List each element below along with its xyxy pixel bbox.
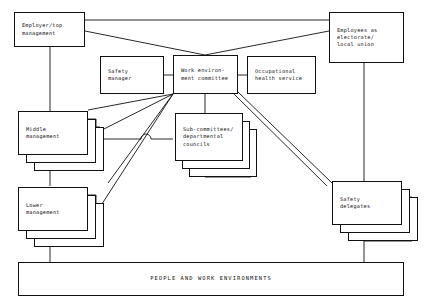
node-people-and-work-environments-label: PEOPLE AND WORK ENVIRONMENTS [19, 275, 403, 282]
node-employees-electorate[interactable]: Employees as electorate/ local union [329, 12, 404, 63]
node-middle-management-label: Middle management [19, 126, 87, 140]
node-safety-delegates[interactable]: Safety delegates [332, 181, 402, 225]
link-employees-to-committee [205, 31, 329, 55]
node-employees-electorate-label: Employees as electorate/ local union [330, 27, 403, 49]
link-committee-to-lower-management-upper [108, 94, 173, 183]
node-safety-delegates-label: Safety delegates [333, 196, 401, 210]
node-lower-management[interactable]: Lower management [18, 187, 88, 231]
node-employer-top-management[interactable]: Employer/top management [14, 12, 85, 47]
work-environment-org-diagram: Employer/top management Employees as ele… [0, 0, 425, 308]
node-sub-committees-departmental-councils-label: Sub-committees/ departmental councils [176, 126, 242, 148]
node-lower-management-label: Lower management [19, 202, 87, 216]
link-committee-to-lower-management-lower [100, 94, 173, 207]
link-employer-to-committee [85, 31, 205, 55]
node-occupational-health-service[interactable]: Occupational health service [247, 56, 316, 94]
node-people-and-work-environments[interactable]: PEOPLE AND WORK ENVIRONMENTS [18, 262, 404, 296]
line-hop-arc [141, 134, 151, 139]
node-safety-manager-label: Safety manager [101, 68, 163, 82]
node-employer-top-management-label: Employer/top management [15, 22, 84, 36]
node-middle-management[interactable]: Middle management [18, 111, 88, 155]
link-committee-to-middle-management [88, 94, 173, 110]
node-sub-committees-departmental-councils[interactable]: Sub-committees/ departmental councils [175, 113, 243, 161]
node-safety-manager[interactable]: Safety manager [100, 56, 164, 94]
node-occupational-health-service-label: Occupational health service [248, 68, 315, 82]
link-committee-to-middle-management-side [100, 94, 173, 131]
node-work-environment-committee-label: Work environ- ment committee [174, 67, 237, 81]
node-work-environment-committee[interactable]: Work environ- ment committee [173, 55, 238, 94]
